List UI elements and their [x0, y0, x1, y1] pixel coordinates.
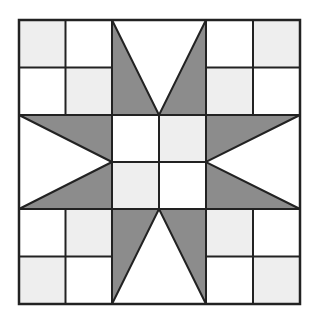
light-square — [253, 257, 300, 305]
quilt-block-diagram — [0, 0, 322, 323]
light-square — [159, 115, 206, 162]
light-square — [112, 162, 159, 209]
light-square — [253, 20, 300, 68]
light-square — [19, 257, 66, 305]
light-square — [19, 20, 66, 68]
light-square — [206, 209, 253, 257]
light-square — [206, 68, 253, 116]
light-square — [66, 209, 113, 257]
light-square — [66, 68, 113, 116]
